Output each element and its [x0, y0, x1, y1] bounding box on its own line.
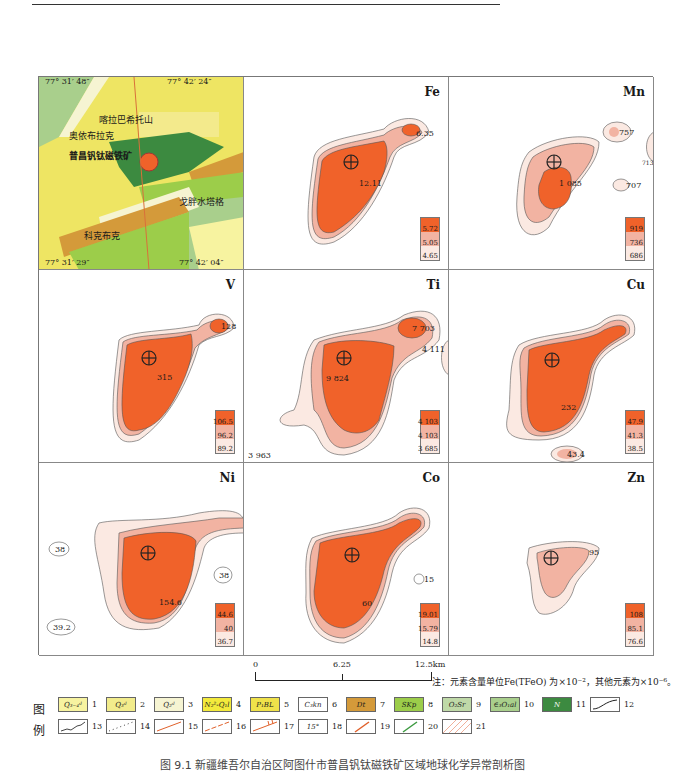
peak-value: 757 — [619, 128, 634, 137]
peak-value: 3 963 — [248, 451, 271, 460]
panel-mn: Mn 1 085 757 707 713 919 736 686 — [449, 77, 654, 270]
peak-value: 315 — [157, 373, 172, 382]
panel-ti: Ti 9 824 7 703 4 111 3 963 4 103 4 103 3… — [244, 270, 449, 463]
panel-v: V 315 128 106.5 96.2 89.2 — [39, 270, 244, 463]
place-name: 普昌钒钛磁铁矿 — [69, 149, 132, 162]
panel-zn: Zn 95 108 85.1 76.6 — [449, 463, 654, 656]
legend-item-4: N₂²-Q₁l4 — [202, 697, 241, 712]
peak-value: 6.35 — [416, 129, 434, 138]
place-name: 科克布克 — [84, 229, 120, 242]
legend-item-20: 20 — [394, 719, 438, 734]
fe-contour-map — [244, 77, 449, 270]
peak-value: 128 — [221, 322, 236, 331]
coord-bottom-right: 77° 42′ 04″ — [179, 258, 223, 267]
legend-item-19: 19 — [346, 719, 390, 734]
peak-value: 154.6 — [159, 598, 182, 607]
mn-contour-map — [449, 77, 654, 270]
cu-contour-map — [449, 270, 654, 463]
peak-value: 15 — [424, 575, 434, 584]
legend-item-21: 21 — [442, 719, 486, 734]
coord-top-left: 77° 31′ 48″ — [45, 77, 89, 86]
legend-item-3: Q₂ᵈ3 — [154, 697, 193, 712]
element-label: Ti — [427, 278, 441, 292]
legend-item-17: 17 — [250, 719, 294, 734]
legend-item-15: 15 — [154, 719, 198, 734]
place-name: 戈胖水塔格 — [179, 195, 224, 208]
coord-top-right: 77° 42′ 24″ — [167, 77, 211, 86]
legend-item-18: 15°18 — [298, 719, 342, 734]
peak-value: 707 — [626, 181, 641, 190]
legend-item-2: Q₃ᵈ2 — [106, 697, 145, 712]
figure-caption: 图 9.1 新疆维吾尔自治区阿图什市普昌钒钛磁铁矿区域地球化学异常剖析图 — [0, 756, 685, 772]
element-label: Cu — [627, 278, 645, 292]
peak-value: 43.4 — [567, 450, 585, 459]
legend-item-8: SKp8 — [394, 697, 433, 712]
geology-map — [39, 77, 244, 270]
peak-value: 713 — [642, 159, 653, 166]
legend-item-5: P₁BL5 — [250, 697, 289, 712]
figure-grid: 77° 31′ 48″ 77° 42′ 24″ 77° 31′ 29″ 77° … — [38, 76, 653, 655]
peak-value: 60 — [362, 599, 372, 608]
legend-item-7: Dt7 — [346, 697, 385, 712]
peak-value: 38 — [55, 545, 65, 554]
legend-item-11: N11 — [542, 697, 586, 712]
panel-co: Co 60 15 19.01 15.79 14.8 — [244, 463, 449, 656]
place-name: 奥依布拉克 — [69, 129, 114, 142]
geology-map-panel: 77° 31′ 48″ 77° 42′ 24″ 77° 31′ 29″ 77° … — [39, 77, 244, 270]
element-label: Co — [422, 471, 440, 485]
legend-item-6: C₃kn6 — [298, 697, 337, 712]
legend-item-1: Q₃₋₄ᵈ1 — [58, 697, 97, 712]
legend-item-12: 12 — [590, 697, 634, 712]
peak-value: 39.2 — [53, 623, 71, 632]
top-rule — [32, 4, 500, 5]
peak-value: 95 — [589, 548, 599, 557]
legend-item-16: 16 — [202, 719, 246, 734]
unit-note: 注：元素含量单位Fe(TFeO) 为×10⁻²，其他元素为×10⁻⁶。 — [432, 675, 676, 688]
deposit-symbol — [344, 155, 358, 169]
peak-value: 9 824 — [326, 374, 349, 383]
peak-value: 232 — [561, 403, 576, 412]
peak-value: 38 — [219, 571, 229, 580]
panel-cu: Cu 232 43.4 47.9 41.3 38.5 — [449, 270, 654, 463]
element-label: V — [226, 278, 235, 292]
peak-value: 4 111 — [422, 345, 445, 354]
zn-contour-map — [449, 463, 654, 656]
panel-ni: Ni 154.6 38 38 39.2 44.6 40 36.7 — [39, 463, 244, 656]
element-label: Zn — [628, 471, 645, 485]
legend-item-9: O₂Sr9 — [442, 697, 481, 712]
legend-item-14: 14 — [106, 719, 150, 734]
element-label: Mn — [623, 85, 645, 99]
place-name: 喀拉巴希托山 — [99, 113, 153, 126]
legend-item-10: ∈₃O₁al10 — [490, 697, 534, 712]
v-contour-map — [39, 270, 244, 463]
element-label: Fe — [425, 85, 441, 99]
peak-value: 7 703 — [412, 324, 435, 333]
peak-value: 12.11 — [359, 179, 382, 188]
legend-item-13: 13 — [58, 719, 102, 734]
panel-fe: Fe 12.11 6.35 5.72 5.05 4.65 — [244, 77, 449, 270]
coord-bottom-left: 77° 31′ 29″ — [45, 258, 89, 267]
element-label: Ni — [219, 471, 235, 485]
peak-value: 1 085 — [559, 179, 582, 188]
